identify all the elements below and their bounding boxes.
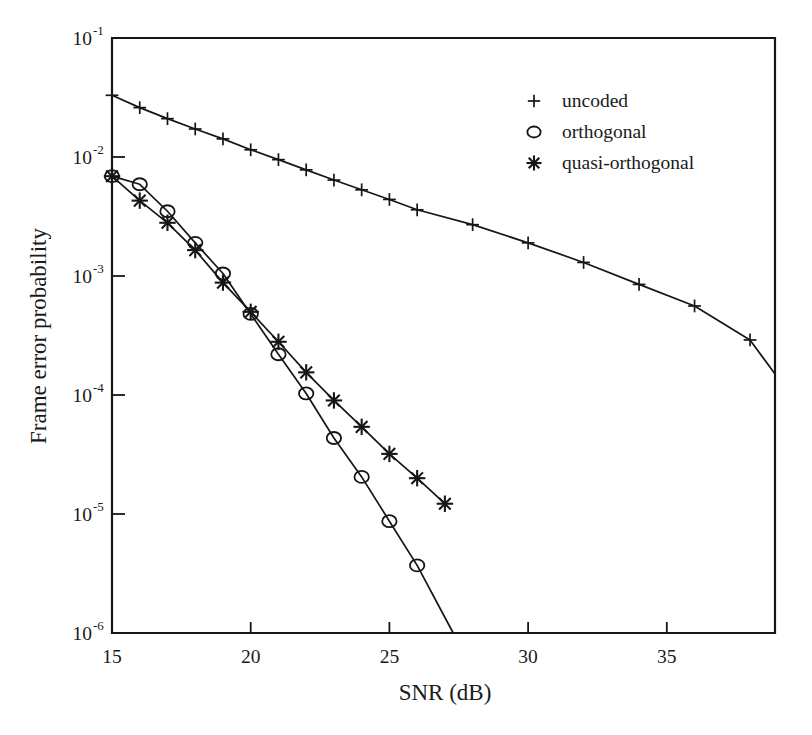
svg-text:10: 10	[73, 504, 93, 525]
svg-text:10: 10	[73, 147, 93, 168]
marker-asterisk	[215, 274, 231, 290]
marker-asterisk	[187, 242, 203, 258]
marker-asterisk	[298, 364, 314, 380]
svg-text:-5: -5	[93, 499, 104, 514]
marker-asterisk	[353, 419, 369, 435]
legend-label-orthogonal: orthogonal	[562, 121, 647, 142]
marker-asterisk	[437, 496, 453, 512]
x-tick-label-35: 35	[657, 646, 677, 667]
legend-label-quasi-orthogonal: quasi-orthogonal	[562, 152, 695, 173]
svg-text:10: 10	[73, 385, 93, 406]
svg-text:10: 10	[73, 623, 93, 644]
marker-asterisk	[526, 155, 541, 170]
x-axis-title: SNR (dB)	[399, 680, 492, 705]
marker-asterisk	[104, 168, 120, 184]
svg-text:-1: -1	[93, 23, 104, 38]
x-tick-label-25: 25	[380, 646, 400, 667]
x-tick-label-30: 30	[518, 646, 538, 667]
figure-container: 1520253035 10-110-210-310-410-510-6 unco…	[0, 0, 812, 735]
marker-asterisk	[409, 470, 425, 486]
svg-text:10: 10	[73, 28, 93, 49]
svg-text:-2: -2	[93, 142, 104, 157]
marker-asterisk	[326, 392, 342, 408]
chart-background	[0, 0, 812, 735]
marker-asterisk	[381, 446, 397, 462]
y-axis-title: Frame error probability	[26, 228, 51, 444]
x-tick-label-15: 15	[102, 646, 122, 667]
marker-asterisk	[270, 334, 286, 350]
svg-text:-6: -6	[93, 618, 104, 633]
x-tick-label-20: 20	[241, 646, 261, 667]
marker-asterisk	[159, 215, 175, 231]
marker-asterisk	[132, 192, 148, 208]
svg-text:-3: -3	[93, 261, 104, 276]
legend-label-uncoded: uncoded	[562, 90, 628, 111]
svg-text:10: 10	[73, 266, 93, 287]
marker-asterisk	[243, 304, 259, 320]
frame-error-probability-chart: 1520253035 10-110-210-310-410-510-6 unco…	[0, 0, 812, 735]
svg-text:-4: -4	[93, 380, 104, 395]
